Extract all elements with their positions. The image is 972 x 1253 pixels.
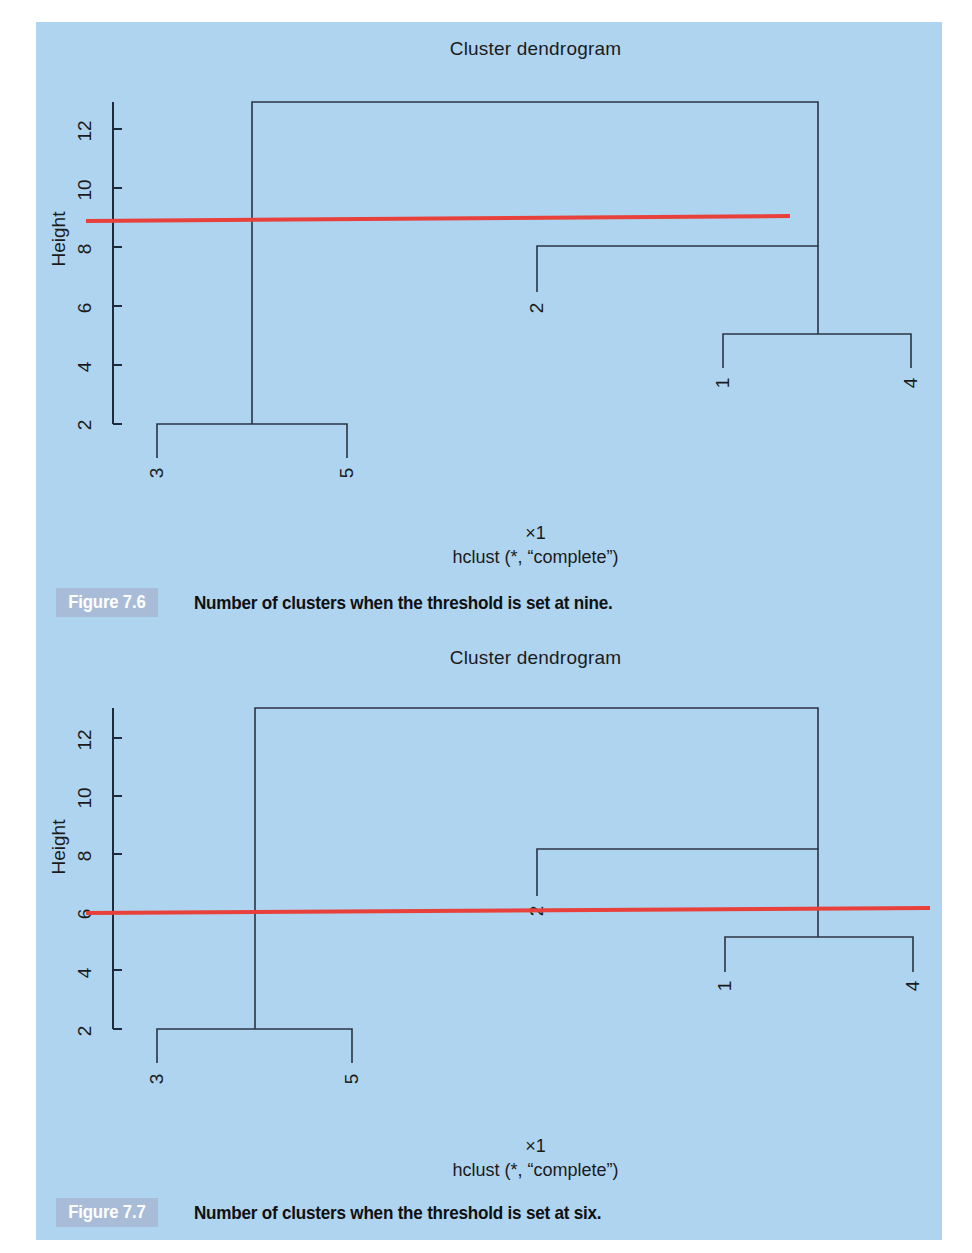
figure-caption-text: Number of clusters when the threshold is… <box>194 1202 601 1224</box>
figure-number-badge: Figure 7.7 <box>56 1198 158 1227</box>
caption-7-7: Figure 7.7 Number of clusters when the t… <box>56 1198 646 1227</box>
footnote-x1: ×1 <box>63 1136 972 1157</box>
dendrogram-plot-2 <box>0 0 972 1253</box>
merge-2-14 <box>537 849 818 937</box>
merge-3-5 <box>157 1029 352 1063</box>
merge-1-4 <box>725 937 913 972</box>
threshold-line <box>86 908 930 913</box>
page-canvas: Cluster dendrogram Height 12 10 8 6 4 2 … <box>0 0 972 1253</box>
footnote-hclust: hclust (*, “complete”) <box>63 1160 972 1181</box>
